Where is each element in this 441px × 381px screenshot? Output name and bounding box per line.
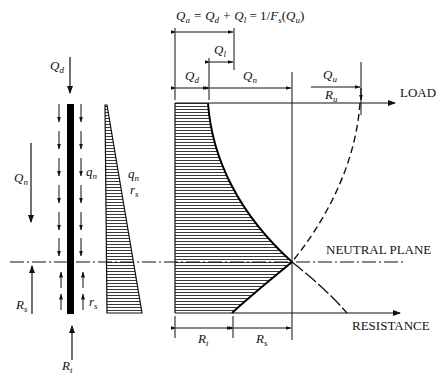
rt-dim-label: Rt [197, 331, 209, 348]
qd-dim-label: Qd [185, 68, 199, 85]
friction-distribution: qn rs [105, 105, 142, 313]
qu-dim-label: Qu [323, 67, 337, 84]
ql-dim-label: Ql [214, 42, 226, 59]
resistance-curve-extension [292, 262, 347, 313]
ru-dim-label: Ru [324, 87, 338, 104]
neutral-plane-diagram: Qd qn rs Qn [0, 0, 441, 381]
pile-diagram: Qd qn rs Qn [14, 57, 98, 375]
resistance-caption: RESISTANCE [352, 318, 430, 333]
shaded-load-area [175, 103, 292, 313]
rt-bottom-label: Rt [61, 358, 73, 375]
qn-pile-label: qn [86, 164, 98, 181]
pile [67, 104, 74, 314]
equation-label: Qa = Qd + Ql = 1/Fs(Qu) [176, 8, 304, 25]
ultimate-curve-dashed [292, 103, 360, 262]
neutral-plane-caption: NEUTRAL PLANE [326, 242, 431, 257]
rs-dim-label: Rs [255, 331, 268, 348]
qn-left-label: Qn [14, 170, 28, 187]
rs-tri-label: rs [130, 182, 139, 199]
qd-label: Qd [50, 58, 64, 75]
rs-left-label: Rs [15, 297, 28, 314]
qn-dim-label: Qn [243, 68, 257, 85]
rs-pile-label: rs [89, 294, 98, 311]
qn-tri-label: qn [128, 166, 140, 183]
load-caption: LOAD [400, 85, 436, 100]
